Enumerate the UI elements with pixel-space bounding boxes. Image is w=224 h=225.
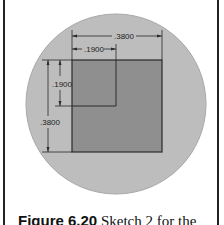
caption-text: Sketch 2 for the bbox=[97, 213, 196, 225]
caption-label: Figure 6.20 bbox=[18, 212, 97, 225]
figure-caption: Figure 6.20 Sketch 2 for the bbox=[18, 212, 196, 225]
dimension-top-inner-width: .1900 bbox=[84, 45, 105, 54]
sketch-drawing: .3800 .1900 .1900 .3800 bbox=[0, 0, 224, 225]
dimension-left-height: .3800 bbox=[40, 118, 61, 127]
dimension-left-inner-height: .1900 bbox=[52, 80, 73, 89]
dimension-top-width: .3800 bbox=[114, 32, 135, 41]
